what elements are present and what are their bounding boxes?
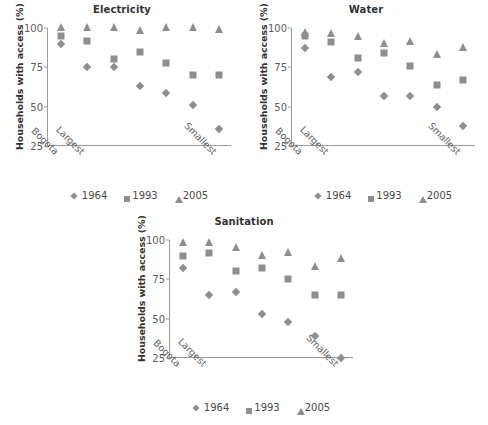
diamond-marker-icon (314, 192, 322, 200)
chart-title-electricity: Electricity (0, 4, 244, 15)
square-marker-icon (242, 404, 250, 412)
y-axis-line (291, 28, 292, 146)
y-axis-tick-mark (44, 106, 47, 107)
data-point-1964-2 (231, 288, 239, 296)
data-point-1993-2 (232, 268, 239, 275)
data-point-1993-6 (460, 76, 467, 83)
legend-label: 2005 (427, 190, 452, 201)
legend-sanitation: 1964 1993 2005 (169, 402, 353, 413)
square-marker-icon (364, 192, 372, 200)
data-point-2005-6 (337, 254, 345, 262)
data-point-1993-6 (338, 292, 345, 299)
y-axis-tick-label: 100 (146, 235, 165, 246)
data-point-2005-4 (284, 248, 292, 256)
y-axis-tick-mark (288, 106, 291, 107)
data-point-2005-1 (83, 23, 91, 31)
data-point-2005-1 (205, 238, 213, 246)
data-point-1964-4 (406, 91, 414, 99)
diamond-marker-icon (192, 404, 200, 412)
data-point-2005-3 (380, 39, 388, 47)
data-point-2005-2 (110, 23, 118, 31)
y-axis-tick-label: 50 (152, 313, 165, 324)
legend-item-1993: 1993 (242, 402, 279, 413)
y-axis-tick-mark (166, 318, 169, 319)
legend-item-2005: 2005 (415, 190, 452, 201)
legend-water: 1964 1993 2005 (291, 190, 475, 201)
data-point-2005-5 (189, 23, 197, 31)
data-point-1993-3 (259, 265, 266, 272)
data-point-1964-1 (205, 291, 213, 299)
data-point-1964-2 (109, 63, 117, 71)
x-axis-tick-label: Largest (299, 124, 332, 157)
data-point-2005-0 (179, 238, 187, 246)
plot-area-water: 255075100BogotaLargestSmallest (291, 28, 475, 146)
data-point-2005-5 (311, 262, 319, 270)
data-point-1993-6 (216, 72, 223, 79)
data-point-2005-3 (136, 26, 144, 34)
data-point-2005-0 (301, 28, 309, 36)
data-point-1993-5 (433, 81, 440, 88)
legend-label: 1964 (204, 402, 229, 413)
diamond-marker-icon (70, 192, 78, 200)
legend-item-1993: 1993 (364, 190, 401, 201)
x-axis-tick-label: Largest (177, 336, 210, 369)
data-point-2005-2 (232, 243, 240, 251)
data-point-1964-0 (179, 264, 187, 272)
data-point-1964-3 (136, 82, 144, 90)
triangle-marker-icon (171, 192, 179, 200)
legend-label: 1993 (254, 402, 279, 413)
y-axis-tick-mark (44, 67, 47, 68)
legend-label: 2005 (305, 402, 330, 413)
legend-label: 1993 (376, 190, 401, 201)
triangle-marker-icon (293, 404, 301, 412)
y-axis-tick-label: 75 (30, 62, 43, 73)
data-point-2005-4 (406, 37, 414, 45)
y-axis-line (47, 28, 48, 146)
y-axis-tick-label: 50 (274, 101, 287, 112)
data-point-1964-0 (301, 44, 309, 52)
data-point-1964-5 (188, 101, 196, 109)
legend-item-1964: 1964 (314, 190, 351, 201)
data-point-1964-1 (327, 73, 335, 81)
y-axis-tick-mark (44, 28, 47, 29)
data-point-2005-5 (433, 50, 441, 58)
legend-item-2005: 2005 (171, 190, 208, 201)
panel-sanitation: Sanitation Households with access (%) 25… (122, 216, 366, 424)
legend-item-1964: 1964 (70, 190, 107, 201)
y-axis-tick-mark (288, 28, 291, 29)
legend-electricity: 1964 1993 2005 (47, 190, 231, 201)
x-axis-tick-label: Largest (55, 124, 88, 157)
y-axis-tick-label: 100 (24, 23, 43, 34)
y-axis-line (169, 240, 170, 358)
data-point-2005-4 (162, 23, 170, 31)
data-point-2005-6 (215, 25, 223, 33)
data-point-1993-1 (84, 37, 91, 44)
chart-title-water: Water (244, 4, 488, 15)
data-point-1964-1 (83, 63, 91, 71)
y-axis-tick-mark (166, 240, 169, 241)
square-marker-icon (120, 192, 128, 200)
y-axis-tick-mark (288, 67, 291, 68)
data-point-2005-2 (354, 32, 362, 40)
legend-label: 2005 (183, 190, 208, 201)
panel-electricity: Electricity Households with access (%) 2… (0, 4, 244, 212)
x-axis-tick-label: Smallest (182, 120, 219, 157)
y-axis-tick-label: 50 (30, 101, 43, 112)
data-point-2005-3 (258, 251, 266, 259)
data-point-1993-0 (180, 252, 187, 259)
chart-title-sanitation: Sanitation (122, 216, 366, 227)
data-point-1964-3 (258, 310, 266, 318)
legend-label: 1964 (82, 190, 107, 201)
panel-water: Water Households with access (%) 2550751… (244, 4, 488, 212)
legend-item-1964: 1964 (192, 402, 229, 413)
data-point-1993-1 (206, 249, 213, 256)
data-point-1993-5 (189, 72, 196, 79)
data-point-2005-6 (459, 43, 467, 51)
data-point-1993-4 (407, 62, 414, 69)
data-point-1964-5 (432, 102, 440, 110)
y-axis-tick-label: 75 (274, 62, 287, 73)
triangle-marker-icon (415, 192, 423, 200)
data-point-1993-0 (58, 32, 65, 39)
data-point-1964-6 (459, 121, 467, 129)
plot-area-electricity: 255075100BogotaLargestSmallest (47, 28, 231, 146)
